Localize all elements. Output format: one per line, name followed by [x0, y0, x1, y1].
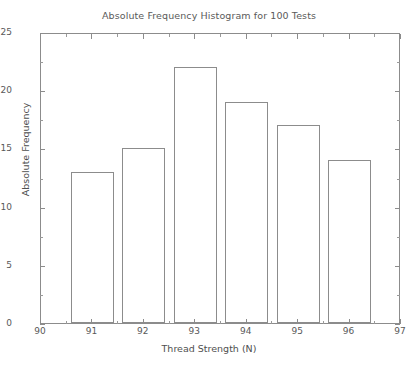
y-tick-label: 25 [0, 28, 12, 37]
y-tick-label: 15 [0, 144, 12, 153]
y-tick-minor [40, 179, 43, 180]
x-tick-mark [40, 319, 41, 324]
x-tick-label: 96 [334, 327, 364, 336]
x-tick-mark-top [40, 34, 41, 39]
x-tick-mark-top [349, 34, 350, 39]
x-tick-mark [297, 319, 298, 324]
x-tick-mark [246, 319, 247, 324]
x-tick-minor-top [66, 34, 67, 37]
x-tick-minor-top [374, 34, 375, 37]
y-tick-mark [40, 208, 45, 209]
x-tick-mark-top [143, 34, 144, 39]
x-tick-label: 95 [282, 327, 312, 336]
bars-layer [41, 34, 399, 323]
y-axis-label: Absolute Frequency [20, 70, 31, 230]
x-tick-mark-top [297, 34, 298, 39]
y-tick-minor-right [397, 237, 400, 238]
histogram-figure: Absolute Frequency Histogram for 100 Tes… [0, 0, 418, 366]
y-tick-mark-right [395, 324, 400, 325]
x-tick-label: 94 [231, 327, 261, 336]
x-tick-mark-top [91, 34, 92, 39]
x-tick-minor [117, 321, 118, 324]
x-tick-minor-top [220, 34, 221, 37]
y-tick-minor [40, 237, 43, 238]
x-axis-label: Thread Strength (N) [0, 343, 418, 354]
y-tick-label: 0 [0, 319, 12, 328]
x-tick-label: 92 [128, 327, 158, 336]
x-tick-mark [400, 319, 401, 324]
y-tick-mark-right [395, 149, 400, 150]
chart-title: Absolute Frequency Histogram for 100 Tes… [0, 10, 418, 21]
y-tick-mark [40, 266, 45, 267]
y-tick-minor [40, 120, 43, 121]
histogram-bar [122, 148, 165, 323]
y-tick-minor [40, 62, 43, 63]
x-tick-mark-top [246, 34, 247, 39]
x-tick-label: 90 [25, 327, 55, 336]
x-tick-label: 91 [76, 327, 106, 336]
y-tick-mark-right [395, 208, 400, 209]
x-tick-minor-top [117, 34, 118, 37]
x-tick-mark [143, 319, 144, 324]
x-tick-minor [66, 321, 67, 324]
y-tick-minor-right [397, 62, 400, 63]
y-tick-minor-right [397, 295, 400, 296]
histogram-bar [328, 160, 371, 323]
y-tick-minor-right [397, 179, 400, 180]
x-tick-minor-top [169, 34, 170, 37]
x-tick-minor-top [323, 34, 324, 37]
x-tick-label: 97 [385, 327, 415, 336]
y-tick-mark [40, 324, 45, 325]
x-tick-minor [374, 321, 375, 324]
y-tick-mark-right [395, 266, 400, 267]
x-tick-minor [271, 321, 272, 324]
x-tick-minor [220, 321, 221, 324]
x-tick-mark [349, 319, 350, 324]
x-tick-mark [194, 319, 195, 324]
histogram-bar [174, 67, 217, 323]
y-tick-label: 10 [0, 203, 12, 212]
histogram-bar [225, 102, 268, 323]
histogram-bar [277, 125, 320, 323]
x-tick-label: 93 [179, 327, 209, 336]
y-tick-label: 20 [0, 86, 12, 95]
y-tick-mark-right [395, 91, 400, 92]
plot-area [40, 33, 400, 324]
x-tick-mark-top [194, 34, 195, 39]
x-tick-minor-top [271, 34, 272, 37]
x-tick-mark-top [400, 34, 401, 39]
y-tick-mark [40, 149, 45, 150]
x-tick-mark [91, 319, 92, 324]
y-tick-mark [40, 91, 45, 92]
y-tick-minor-right [397, 120, 400, 121]
x-tick-minor [323, 321, 324, 324]
histogram-bar [71, 172, 114, 323]
x-tick-minor [169, 321, 170, 324]
y-tick-label: 5 [0, 261, 12, 270]
y-tick-minor [40, 295, 43, 296]
